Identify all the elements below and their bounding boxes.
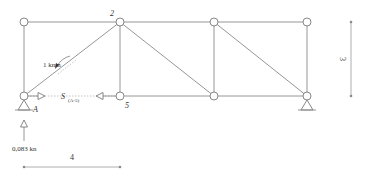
force-arrow-left-icon <box>96 93 103 100</box>
node-a <box>20 92 28 100</box>
member-force-label: S <box>61 92 65 101</box>
dimension-height-label: 3 <box>338 57 347 61</box>
node-label-2: 2 <box>110 9 114 18</box>
dimension-width-start <box>23 166 26 169</box>
node-2 <box>116 18 124 26</box>
node-bot-3 <box>210 92 218 100</box>
diagonal-member-3 <box>214 22 307 96</box>
reaction-arrow-up-icon <box>21 120 28 127</box>
node-label-a: A <box>32 105 38 114</box>
dimension-height-end <box>350 95 353 98</box>
dimension-width-label: 4 <box>70 153 74 162</box>
pin-support-a-icon <box>18 100 30 110</box>
member-force-subscript: (A-5) <box>68 98 79 103</box>
node-top-4 <box>303 18 311 26</box>
node-5 <box>116 92 124 100</box>
node-label-5: 5 <box>125 101 129 110</box>
reaction-label: 0,083 kn <box>12 145 37 153</box>
truss-diagram: 2 A 5 1 knm S (A-5) 0,083 kn 4 3 <box>0 0 367 180</box>
force-arrow-right-icon <box>38 93 45 100</box>
moment-label: 1 knm <box>43 61 61 69</box>
dimension-width-end <box>119 166 122 169</box>
node-top-3 <box>210 18 218 26</box>
dimension-height-start <box>350 21 353 24</box>
node-top-1 <box>20 18 28 26</box>
pin-support-right-icon <box>301 100 313 110</box>
node-bot-4 <box>303 92 311 100</box>
diagonal-member-2 <box>120 22 214 96</box>
diagonal-member-a2 <box>24 22 120 96</box>
